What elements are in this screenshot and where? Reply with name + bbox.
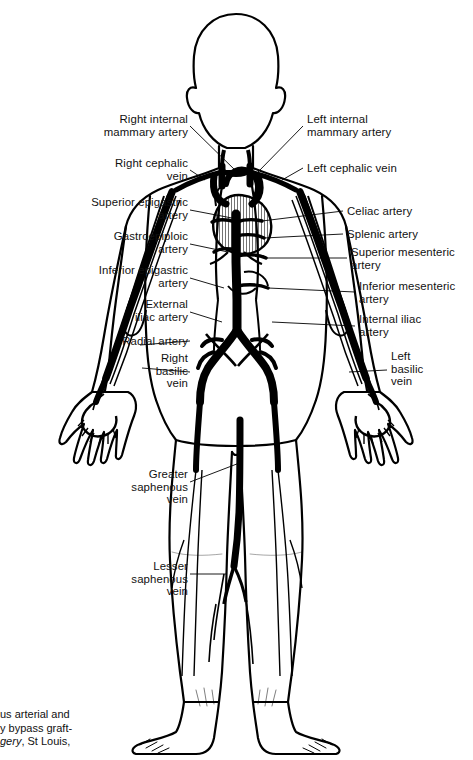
label-right-cephalic-vein: Right cephalic vein — [60, 157, 188, 182]
label-inferior-epigastric-artery: Inferior epigastric artery — [34, 264, 188, 289]
label-superior-mesenteric-artery: Superior mesenteric artery — [351, 246, 455, 271]
caption-line-1: us arterial and — [0, 708, 72, 722]
label-left-internal-mammary-artery: Left internal mammary artery — [307, 113, 391, 138]
inferior-mesenteric-vessel — [237, 285, 268, 288]
label-superior-epigastric-artery: Superior epigastric artery — [34, 196, 188, 221]
anatomy-figure-page: Right internal mammary arteryRight cepha… — [0, 0, 473, 760]
neck-vessels — [222, 150, 250, 170]
label-inferior-mesenteric-artery: Inferior mesenteric artery — [359, 280, 455, 305]
label-lesser-saphenous-vein: Lesser saphenous vein — [92, 560, 188, 598]
label-right-basilic-vein: Right basilic vein — [60, 352, 188, 390]
source-caption: us arterial andy bypass graft-gery, St L… — [0, 708, 72, 749]
label-right-internal-mammary-artery: Right internal mammary artery — [60, 113, 188, 138]
label-greater-saphenous-vein: Greater saphenous vein — [92, 468, 188, 506]
label-external-iliac-artery: External iliac artery — [60, 298, 188, 323]
caption-line-3: gery, St Louis, — [0, 735, 72, 749]
label-radial-artery: Radial artery — [48, 335, 188, 348]
gastroepiploic-vessel — [210, 252, 228, 264]
inferior-epigastric-artery-leader — [190, 278, 224, 288]
label-left-cephalic-vein: Left cephalic vein — [307, 162, 397, 175]
descending-aorta — [236, 214, 237, 330]
label-celiac-artery: Celiac artery — [347, 205, 412, 218]
left-basilic-vein-leader — [349, 370, 387, 372]
caption-line-2: y bypass graft- — [0, 722, 72, 736]
label-left-basilic-vein: Left basilic vein — [391, 350, 423, 388]
left-cephalic-vein-leader — [282, 168, 303, 180]
label-gastroepiploic-artery: Gastroepiploic artery — [50, 230, 188, 255]
label-internal-iliac-artery: Internal iliac artery — [359, 313, 421, 338]
label-splenic-artery: Splenic artery — [347, 228, 418, 241]
